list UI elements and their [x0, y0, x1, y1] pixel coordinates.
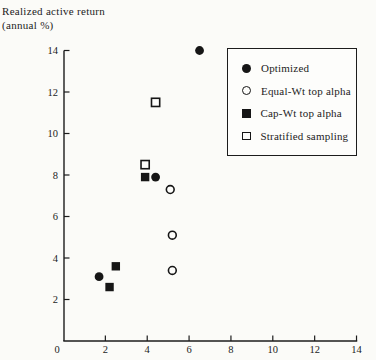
data-point-equal-wt-top-alpha	[168, 231, 176, 239]
legend-item-optimized: Optimized	[242, 57, 356, 80]
x-tick-label: 10	[268, 344, 279, 355]
data-point-cap-wt-top-alpha	[105, 283, 113, 291]
data-point-optimized	[151, 173, 160, 182]
data-point-cap-wt-top-alpha	[112, 262, 120, 270]
open-circle-icon	[242, 86, 251, 95]
legend-item-stratified-sampling: Stratified sampling	[242, 125, 356, 148]
x-tick-label: 14	[351, 344, 362, 355]
data-point-stratified-sampling	[141, 161, 149, 169]
y-tick-label: 12	[48, 87, 59, 98]
legend-label-stratified-sampling: Stratified sampling	[261, 130, 349, 142]
data-point-equal-wt-top-alpha	[168, 267, 176, 275]
legend: Optimized Equal-Wt top alpha Cap-Wt top …	[227, 48, 357, 156]
x-tick-label: 6	[186, 344, 191, 355]
x-tick-label: 12	[309, 344, 320, 355]
scatter-figure: Realized active return (annual %) 246810…	[0, 0, 376, 360]
data-point-cap-wt-top-alpha	[141, 173, 149, 181]
y-tick-label: 6	[53, 211, 58, 222]
y-tick-label: 8	[53, 170, 58, 181]
y-tick-label: 4	[53, 253, 59, 264]
data-point-equal-wt-top-alpha	[166, 186, 174, 194]
data-point-stratified-sampling	[151, 98, 159, 106]
data-point-optimized	[95, 272, 104, 281]
filled-circle-icon	[242, 64, 251, 73]
open-square-icon	[242, 132, 251, 141]
legend-label-cap-wt-top-alpha: Cap-Wt top alpha	[261, 107, 342, 119]
x-tick-label: 2	[103, 344, 108, 355]
filled-square-icon	[242, 109, 251, 118]
x-tick-label: 0	[54, 344, 59, 355]
legend-label-optimized: Optimized	[261, 62, 309, 74]
x-tick-label: 4	[145, 344, 151, 355]
y-tick-label: 14	[48, 45, 59, 56]
legend-item-cap-wt-top-alpha: Cap-Wt top alpha	[242, 102, 356, 125]
legend-label-equal-wt-top-alpha: Equal-Wt top alpha	[261, 85, 351, 97]
y-tick-label: 2	[53, 294, 58, 305]
legend-item-equal-wt-top-alpha: Equal-Wt top alpha	[242, 79, 356, 102]
y-tick-label: 10	[48, 128, 59, 139]
x-tick-label: 8	[228, 344, 233, 355]
data-point-optimized	[195, 46, 204, 55]
